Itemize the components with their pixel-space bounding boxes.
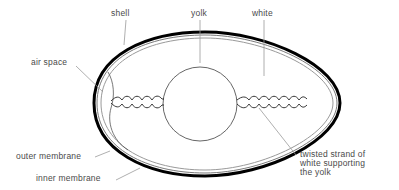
leader-chalaza [259,108,296,155]
yolk [163,67,237,141]
label-shell: shell [111,9,129,18]
label-air-space: air space [31,58,67,67]
chalaza-right [237,96,307,108]
leader-outer-membrane [95,151,110,157]
leader-shell [124,20,126,45]
label-outer-membrane: outer membrane [16,152,81,161]
label-inner-membrane: inner membrane [36,174,101,183]
label-chalaza: twisted strand of white supporting the y… [300,150,365,177]
leader-inner-membrane [116,168,140,180]
egg-diagram: shell yolk white air space outer membran… [0,0,399,190]
chalaza-left [111,96,164,108]
label-yolk: yolk [191,9,207,18]
air-space-boundary [108,72,128,150]
label-white: white [252,9,273,18]
